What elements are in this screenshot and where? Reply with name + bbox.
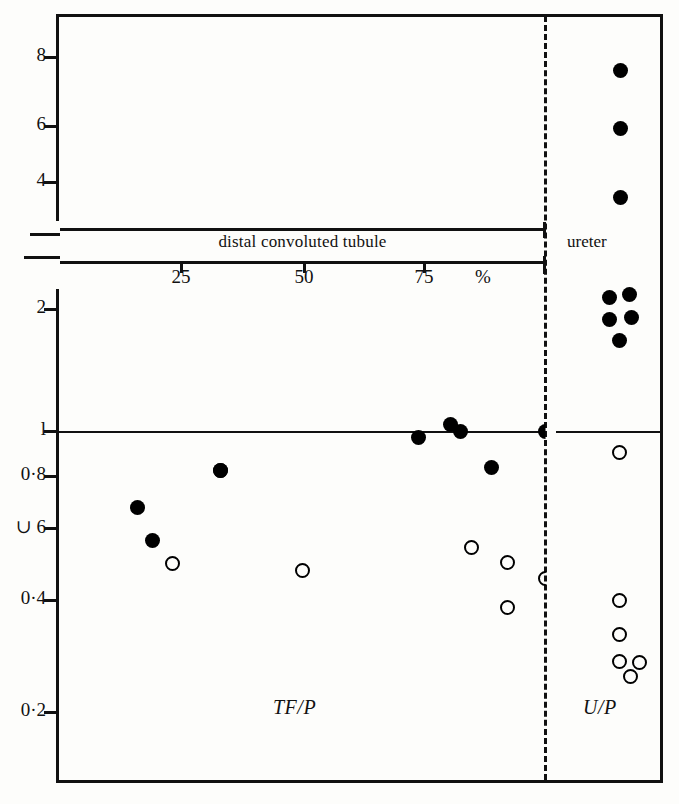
y-tick-label: 8 — [0, 44, 46, 66]
y-tick-label: 4 — [0, 169, 46, 191]
percent-axis-label: % — [463, 266, 503, 288]
distal-convoluted-tubule-label: distal convoluted tubule — [60, 232, 545, 252]
data-point-open — [612, 593, 627, 608]
x-tick-label: 25 — [158, 266, 204, 288]
y-tick-mark — [44, 711, 58, 714]
frame-left-upper — [56, 14, 59, 221]
frame-left-lower — [56, 296, 59, 783]
data-point-filled — [453, 424, 468, 439]
x-tick-label: 75 — [401, 266, 447, 288]
y-tick-mark — [44, 308, 58, 311]
data-point-open — [500, 600, 515, 615]
y-tick-mark — [44, 475, 58, 478]
band-cap-right-bottom — [543, 256, 546, 274]
data-point-filled — [130, 500, 145, 515]
y-tick-mark — [44, 181, 58, 184]
data-point-open — [623, 669, 638, 684]
tfp-caption: TF/P — [273, 696, 316, 719]
data-point-open — [295, 563, 310, 578]
y-tick-label: 0·2 — [0, 699, 46, 721]
frame-right-border — [660, 14, 663, 783]
band-cap-left-bottom — [24, 256, 60, 259]
y-tick-label: l — [0, 418, 46, 440]
data-point-open — [612, 654, 627, 669]
y-tick-mark — [44, 599, 58, 602]
data-point-open — [632, 655, 647, 670]
data-point-filled — [624, 310, 639, 325]
unity-reference-line-left — [57, 431, 545, 433]
y-tick-label: ∪ 6 — [0, 515, 46, 538]
data-point-open — [612, 445, 627, 460]
y-axis-nub — [56, 289, 59, 299]
y-tick-mark — [44, 56, 58, 59]
data-point-filled — [602, 290, 617, 305]
up-caption: U/P — [583, 696, 617, 719]
data-point-open — [612, 627, 627, 642]
y-tick-label: 0·8 — [0, 463, 46, 485]
band-cap-left-top — [30, 233, 60, 236]
band-top-rule — [60, 228, 545, 231]
data-point-open — [464, 540, 479, 555]
y-tick-label: 0·4 — [0, 587, 46, 609]
data-point-filled — [613, 190, 628, 205]
data-point-filled — [612, 333, 627, 348]
frame-top-border — [57, 14, 663, 17]
frame-bottom-border — [57, 780, 663, 783]
figure-panel: distal convoluted tubule ureter 8642l0·8… — [0, 0, 679, 804]
data-point-filled — [145, 533, 160, 548]
data-point-open — [500, 555, 515, 570]
ureter-label: ureter — [567, 232, 607, 252]
x-tick-label: 50 — [281, 266, 327, 288]
data-point-open — [165, 556, 180, 571]
y-tick-mark — [44, 527, 58, 530]
y-tick-label: 2 — [0, 296, 46, 318]
data-point-filled — [613, 63, 628, 78]
y-tick-label: 6 — [0, 113, 46, 135]
data-point-filled — [602, 312, 617, 327]
y-tick-mark — [44, 430, 58, 433]
data-point-filled — [213, 463, 228, 478]
data-point-filled — [484, 460, 499, 475]
data-point-filled — [622, 287, 637, 302]
data-point-filled — [613, 121, 628, 136]
unity-reference-line-right — [556, 431, 663, 433]
data-point-open — [538, 571, 553, 586]
tfp-up-divider — [544, 16, 547, 780]
data-point-filled — [411, 430, 426, 445]
y-tick-mark — [44, 125, 58, 128]
